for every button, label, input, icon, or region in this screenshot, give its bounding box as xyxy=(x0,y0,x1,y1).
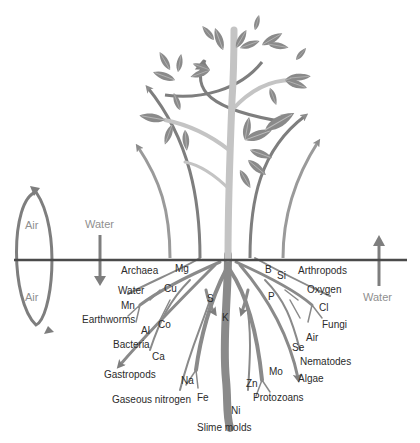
label-cu: Cu xyxy=(164,284,177,294)
label-ca: Ca xyxy=(152,352,165,362)
label-mn: Mn xyxy=(121,301,135,311)
label-air-below: Air xyxy=(25,292,38,303)
label-fungi: Fungi xyxy=(322,320,347,330)
label-na: Na xyxy=(181,376,194,386)
label-archaea: Archaea xyxy=(121,266,158,276)
label-fe: Fe xyxy=(197,393,209,403)
label-air-above: Air xyxy=(25,220,38,231)
label-p: P xyxy=(268,292,275,302)
label-al: Al xyxy=(141,326,150,336)
label-nematodes: Nematodes xyxy=(300,357,351,367)
label-water: Water xyxy=(118,286,144,296)
label-se: Se xyxy=(292,343,304,353)
label-zn: Zn xyxy=(246,379,258,389)
label-si: Si xyxy=(277,271,286,281)
label-algae: Algae xyxy=(298,374,324,384)
label-mg: Mg xyxy=(175,264,189,274)
label-s: S xyxy=(207,294,214,304)
label-mo: Mo xyxy=(269,367,283,377)
label-earthworms: Earthworms xyxy=(82,315,135,325)
label-arthropods: Arthropods xyxy=(298,266,347,276)
label-oxygen: Oxygen xyxy=(307,285,341,295)
label-bacteria: Bacteria xyxy=(113,340,150,350)
label-water-up: Water xyxy=(363,292,392,303)
label-ni: Ni xyxy=(231,406,240,416)
label-water-down: Water xyxy=(85,219,114,230)
plant-leaves xyxy=(139,14,311,189)
label-gaseous-nitrogen: Gaseous nitrogen xyxy=(112,395,191,405)
soil-plant-nutrient-diagram: Air Air Water Water Archaea Water Mn Ear… xyxy=(0,0,420,443)
diagram-illustration xyxy=(0,0,420,443)
label-co: Co xyxy=(158,320,171,330)
label-slime-molds: Slime molds xyxy=(197,423,251,433)
label-cl: Cl xyxy=(319,303,328,313)
label-b: B xyxy=(265,265,272,275)
label-air-right: Air xyxy=(306,333,318,343)
label-gastropods: Gastropods xyxy=(104,370,156,380)
label-k: K xyxy=(222,313,229,323)
label-protozoans: Protozoans xyxy=(253,393,304,403)
